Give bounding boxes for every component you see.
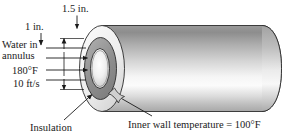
- dimension-inner: [41, 33, 84, 90]
- dimension-inner-label: 1 in.: [25, 21, 44, 32]
- inlet-temperature-label: 180°F: [12, 65, 38, 76]
- cylinder-end-cap: [262, 26, 282, 112]
- insulation-leader: [64, 95, 92, 121]
- water-in-line2: annulus: [2, 50, 38, 61]
- inlet-velocity-label: 10 ft/s: [13, 78, 40, 89]
- annular-pipe-diagram: 1.5 in. 1 in. Water in annulus 180°F 10 …: [0, 0, 290, 137]
- water-in-annulus-label: Water in annulus: [2, 39, 38, 62]
- inner-wall-temperature-label: Inner wall temperature = 100°F: [128, 119, 261, 130]
- pipe-cross-section: [80, 26, 125, 112]
- pipe-cylinder: [103, 26, 282, 112]
- inner-tube-wall: [91, 49, 110, 89]
- dimension-outer-label: 1.5 in.: [62, 3, 89, 14]
- insulation-label: Insulation: [30, 122, 72, 133]
- cylinder-surface: [103, 26, 282, 112]
- water-in-line1: Water in: [2, 39, 38, 50]
